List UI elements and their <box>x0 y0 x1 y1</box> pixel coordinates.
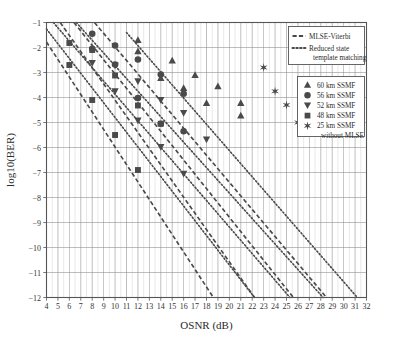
x-tick-label: 21 <box>237 302 245 311</box>
data-point-marker-circle <box>89 30 96 37</box>
y-tick-label: −9 <box>32 219 41 228</box>
legend-label-52-km-ssmf: 52 km SSMF <box>317 102 355 110</box>
x-tick-label: 4 <box>45 302 49 311</box>
legend-label-25-km-ssmf: 25 km SSMF <box>317 122 355 130</box>
y-tick-label: −1 <box>32 19 41 28</box>
x-tick-label: 32 <box>363 302 371 311</box>
y-tick-label: −7 <box>32 169 41 178</box>
x-tick-label: 30 <box>340 302 348 311</box>
x-tick-label: 20 <box>225 302 233 311</box>
x-tick-label: 12 <box>134 302 142 311</box>
x-tick-label: 24 <box>271 302 279 311</box>
x-tick-label: 14 <box>157 302 165 311</box>
x-tick-label: 9 <box>102 302 106 311</box>
x-tick-label: 18 <box>203 302 211 311</box>
x-tick-label: 10 <box>111 302 119 311</box>
legend-label-60-km-ssmf: 60 km SSMF <box>317 82 355 90</box>
ber-vs-osnr-chart: 4567891011121314151617181920212223242526… <box>0 0 402 348</box>
x-tick-label: 27 <box>305 302 313 311</box>
x-tick-label: 29 <box>328 302 336 311</box>
legend-label-56-km-ssmf: 56 km SSMF <box>317 92 355 100</box>
y-tick-label: −4 <box>32 94 41 103</box>
x-tick-label: 16 <box>180 302 188 311</box>
x-tick-label: 5 <box>56 302 60 311</box>
x-tick-label: 19 <box>214 302 222 311</box>
y-tick-label: −11 <box>29 269 41 278</box>
data-point-marker-circle <box>135 95 142 102</box>
y-tick-label: −3 <box>32 69 41 78</box>
data-point-marker-square <box>112 132 118 138</box>
data-point-marker-circle <box>135 56 142 63</box>
y-tick-label: −5 <box>32 119 41 128</box>
x-tick-label: 8 <box>90 302 94 311</box>
y-tick-label: −2 <box>32 44 41 53</box>
y-tick-label: −6 <box>32 144 41 153</box>
legend-label-reduced-state: Reduced state <box>309 45 349 53</box>
data-point-marker-square <box>89 97 95 103</box>
y-tick-label: −10 <box>28 244 41 253</box>
x-tick-label: 7 <box>79 302 83 311</box>
legend-layer: MLSE-ViterbiReduced statetemplate matchi… <box>289 27 367 140</box>
x-tick-label: 15 <box>168 302 176 311</box>
y-tick-label: −12 <box>28 294 41 303</box>
legend-marker-circle-icon <box>304 92 310 98</box>
legend-label-template-matching: template matching <box>313 54 367 62</box>
x-axis-title: OSNR (dB) <box>180 319 233 332</box>
legend-label-48-km-ssmf: 48 km SSMF <box>317 112 355 120</box>
legend-marker-square-icon <box>305 113 311 119</box>
legend-label-mlse-viterbi: MLSE-Viterbi <box>309 33 351 41</box>
y-tick-label: −8 <box>32 194 41 203</box>
x-tick-label: 6 <box>67 302 71 311</box>
x-tick-label: 13 <box>145 302 153 311</box>
y-axis-title: log10(BER) <box>4 133 17 187</box>
data-point-marker-square <box>66 62 72 68</box>
x-tick-label: 25 <box>283 302 291 311</box>
x-tick-label: 23 <box>260 302 268 311</box>
x-tick-label: 11 <box>123 302 131 311</box>
x-tick-label: 28 <box>317 302 325 311</box>
x-tick-label: 26 <box>294 302 302 311</box>
chart-figure: 4567891011121314151617181920212223242526… <box>0 0 402 348</box>
x-tick-label: 17 <box>191 302 199 311</box>
data-point-marker-square <box>135 167 141 173</box>
data-point-marker-circle <box>157 120 164 127</box>
x-tick-label: 22 <box>248 302 256 311</box>
legend-label-without-mlse: without MLSE <box>321 132 365 140</box>
data-point-marker-circle <box>89 45 96 52</box>
x-tick-label: 31 <box>351 302 359 311</box>
